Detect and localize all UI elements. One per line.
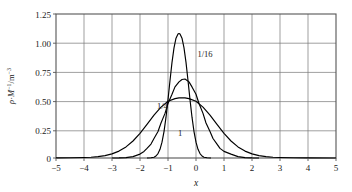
chart-figure: −5 −4 −3 −2 −1 0 1 2 3 4 5 0 0.25 0.50 0… <box>0 0 352 192</box>
x-tick-label-3: −2 <box>135 163 145 173</box>
y-axis-title-slash: /m <box>6 74 16 83</box>
curve-annotation-1: 1 <box>178 128 182 138</box>
x-tick-label-4: −1 <box>163 163 173 173</box>
y-tick-label-3: 0.75 <box>35 68 51 78</box>
x-tick-label-7: 2 <box>250 163 255 173</box>
y-tick-label-0: 0 <box>47 154 52 164</box>
svg-text:ρ·M−1/m−3: ρ·M−1/m−3 <box>6 68 16 105</box>
x-tick-label-5: 0 <box>194 163 199 173</box>
chart-svg: −5 −4 −3 −2 −1 0 1 2 3 4 5 0 0.25 0.50 0… <box>0 0 352 192</box>
y-tick-label-4: 1.00 <box>35 39 51 49</box>
x-tick-label-0: −5 <box>51 163 61 173</box>
y-tick-label-5: 1.25 <box>35 10 51 20</box>
y-axis-title-m-exp: −3 <box>6 68 12 74</box>
x-tick-label-2: −3 <box>107 163 117 173</box>
x-tick-label-10: 5 <box>334 163 339 173</box>
x-tick-label-8: 3 <box>278 163 283 173</box>
curve-annotation-1-4: 1/4 <box>157 101 169 111</box>
x-tick-label-1: −4 <box>79 163 89 173</box>
y-tick-label-1: 0.25 <box>35 126 51 136</box>
x-tick-label-9: 4 <box>306 163 311 173</box>
curve-annotation-1-16: 1/16 <box>198 49 213 59</box>
x-axis-title: x <box>193 178 199 188</box>
y-tick-label-2: 0.50 <box>35 97 51 107</box>
x-tick-label-6: 1 <box>222 163 227 173</box>
y-axis-title: ρ·M−1/m−3 <box>6 68 16 105</box>
